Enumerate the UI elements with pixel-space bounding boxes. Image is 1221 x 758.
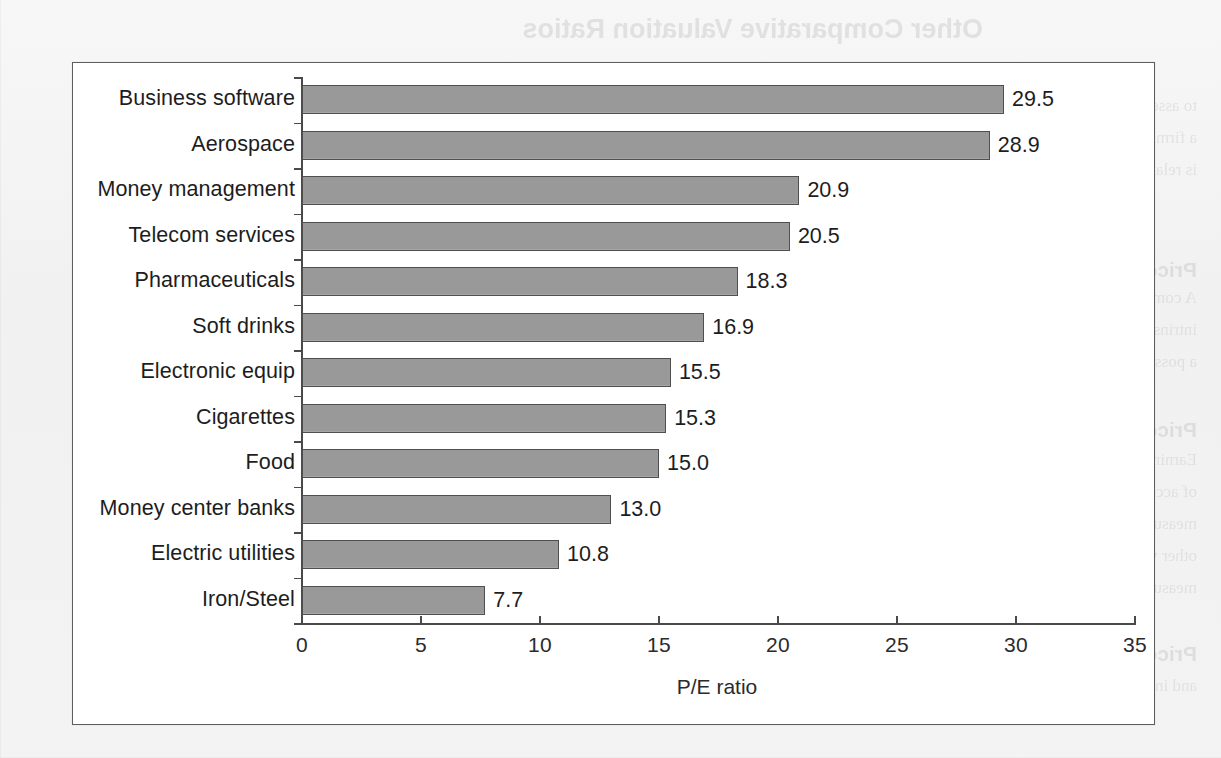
bar-row: Money management20.9 bbox=[73, 168, 1156, 214]
x-axis-tick bbox=[420, 616, 422, 625]
bar[interactable] bbox=[302, 131, 990, 160]
x-axis-tick-label: 30 bbox=[1004, 633, 1028, 657]
category-label: Food bbox=[246, 450, 295, 475]
x-axis-tick bbox=[896, 616, 898, 625]
y-axis-tick bbox=[294, 123, 303, 125]
category-label: Soft drinks bbox=[192, 314, 295, 339]
bar-value-label: 15.3 bbox=[674, 406, 716, 431]
bar-row: Food15.0 bbox=[73, 441, 1156, 487]
bar-row: Business software29.5 bbox=[73, 77, 1156, 123]
bar-row: Money center banks13.0 bbox=[73, 487, 1156, 533]
bar-row: Telecom services20.5 bbox=[73, 214, 1156, 260]
bar-value-label: 16.9 bbox=[712, 315, 754, 340]
bar-value-label: 20.5 bbox=[798, 224, 840, 249]
bar[interactable] bbox=[302, 222, 790, 251]
category-label: Iron/Steel bbox=[202, 587, 295, 612]
chart-frame: Business software29.5Aerospace28.9Money … bbox=[72, 62, 1155, 725]
x-axis-tick-label: 35 bbox=[1123, 633, 1147, 657]
category-label: Aerospace bbox=[191, 132, 295, 157]
bar[interactable] bbox=[302, 358, 671, 387]
bar-value-label: 13.0 bbox=[619, 497, 661, 522]
y-axis-tick bbox=[294, 578, 303, 580]
bar[interactable] bbox=[302, 176, 799, 205]
x-axis-tick-label: 5 bbox=[415, 633, 427, 657]
bar-row: Iron/Steel7.7 bbox=[73, 578, 1156, 624]
bar-row: Soft drinks16.9 bbox=[73, 305, 1156, 351]
bar[interactable] bbox=[302, 540, 559, 569]
bar-value-label: 15.5 bbox=[679, 360, 721, 385]
bar-row: Cigarettes15.3 bbox=[73, 396, 1156, 442]
bar-value-label: 18.3 bbox=[746, 269, 788, 294]
y-axis-tick bbox=[294, 259, 303, 261]
y-axis-tick bbox=[294, 214, 303, 216]
bar[interactable] bbox=[302, 267, 738, 296]
x-axis-tick-label: 20 bbox=[766, 633, 790, 657]
category-label: Electric utilities bbox=[151, 541, 295, 566]
bar-value-label: 15.0 bbox=[667, 451, 709, 476]
y-axis-tick bbox=[294, 168, 303, 170]
bar[interactable] bbox=[302, 495, 611, 524]
bar-value-label: 7.7 bbox=[493, 588, 523, 613]
x-axis-tick bbox=[539, 616, 541, 625]
x-axis-tick-label: 10 bbox=[528, 633, 552, 657]
x-axis-tick-label: 15 bbox=[647, 633, 671, 657]
y-axis-tick bbox=[294, 487, 303, 489]
x-axis-title: P/E ratio bbox=[677, 675, 758, 699]
category-label: Telecom services bbox=[129, 223, 295, 248]
y-axis-tick bbox=[294, 77, 303, 79]
bar-value-label: 29.5 bbox=[1012, 87, 1054, 112]
category-label: Money management bbox=[97, 177, 295, 202]
y-axis-tick bbox=[294, 532, 303, 534]
bar-value-label: 20.9 bbox=[807, 178, 849, 203]
x-axis-tick-label: 25 bbox=[885, 633, 909, 657]
bar-value-label: 10.8 bbox=[567, 542, 609, 567]
x-axis-tick bbox=[1134, 616, 1136, 625]
bar-row: Aerospace28.9 bbox=[73, 123, 1156, 169]
y-axis-tick bbox=[294, 396, 303, 398]
category-label: Pharmaceuticals bbox=[135, 268, 295, 293]
plot-area: Business software29.5Aerospace28.9Money … bbox=[73, 63, 1156, 726]
bar-row: Electronic equip15.5 bbox=[73, 350, 1156, 396]
y-axis-tick bbox=[294, 350, 303, 352]
category-label: Cigarettes bbox=[196, 405, 295, 430]
bar[interactable] bbox=[302, 586, 485, 615]
x-axis-tick bbox=[301, 616, 303, 625]
category-label: Electronic equip bbox=[140, 359, 295, 384]
x-axis-tick bbox=[658, 616, 660, 625]
bar[interactable] bbox=[302, 85, 1004, 114]
bar-row: Pharmaceuticals18.3 bbox=[73, 259, 1156, 305]
bar[interactable] bbox=[302, 404, 666, 433]
y-axis-tick bbox=[294, 441, 303, 443]
bar-row: Electric utilities10.8 bbox=[73, 532, 1156, 578]
category-label: Money center banks bbox=[100, 496, 295, 521]
bar[interactable] bbox=[302, 449, 659, 478]
bar-value-label: 28.9 bbox=[998, 133, 1040, 158]
category-label: Business software bbox=[119, 86, 295, 111]
x-axis-tick-label: 0 bbox=[296, 633, 308, 657]
bar[interactable] bbox=[302, 313, 704, 342]
y-axis-tick bbox=[294, 305, 303, 307]
x-axis-tick bbox=[777, 616, 779, 625]
x-axis-tick bbox=[1015, 616, 1017, 625]
